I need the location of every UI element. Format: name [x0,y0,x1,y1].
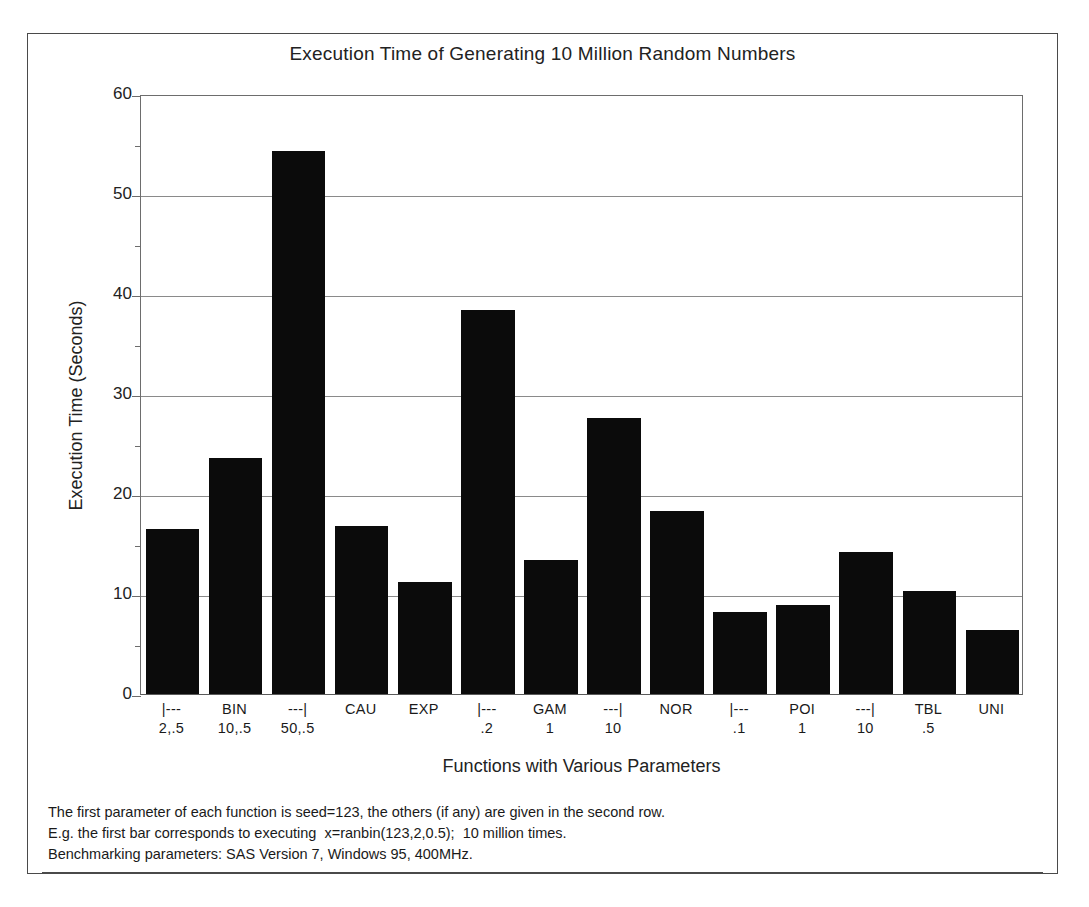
footnote-rule [42,872,1043,874]
x-tick-row2: 10 [834,719,897,738]
x-tick-row1: GAM [533,701,567,717]
bar [587,418,641,694]
chart-title: Execution Time of Generating 10 Million … [28,43,1057,65]
footnote: The first parameter of each function is … [48,802,1038,865]
x-tick-row1: ---| [603,701,622,717]
x-axis-tick-label: UNI [960,700,1023,719]
bar [903,591,957,694]
footnote-line-3: Benchmarking parameters: SAS Version 7, … [48,844,1038,865]
footnote-line-2: E.g. the first bar corresponds to execut… [48,823,1038,844]
y-axis-major-tick [132,196,141,197]
figure-frame: Execution Time of Generating 10 Million … [27,33,1058,874]
bar [398,582,452,694]
x-axis-tick-label: EXP [392,700,455,719]
y-axis-tick-label: 50 [72,184,132,204]
x-tick-row2: 1 [518,719,581,738]
x-tick-row1: POI [789,701,815,717]
plot-area [140,95,1023,695]
bar [146,529,200,694]
y-axis-tick-label: 20 [72,484,132,504]
y-axis-major-tick [132,596,141,597]
x-tick-row2: 10,.5 [203,719,266,738]
y-axis-minor-tick [135,646,141,647]
y-axis-minor-tick [135,346,141,347]
y-axis-tick-label: 10 [72,584,132,604]
bar [209,458,263,694]
bar [524,560,578,694]
x-tick-row2: 2,.5 [140,719,203,738]
x-axis-tick-label: ---|10 [582,700,645,738]
y-axis-major-tick [132,496,141,497]
x-tick-row1: |--- [162,701,181,717]
bar [272,151,326,694]
y-axis-major-tick [132,96,141,97]
x-axis-tick-label: TBL.5 [897,700,960,738]
y-axis-minor-tick [135,546,141,547]
y-axis-tick-label: 0 [72,684,132,704]
x-tick-row2: .5 [897,719,960,738]
x-tick-row2: 10 [582,719,645,738]
x-tick-row1: BIN [222,701,247,717]
x-axis-tick-label: |---.2 [455,700,518,738]
y-axis-tick-label: 40 [72,284,132,304]
x-axis-tick-label: NOR [645,700,708,719]
x-tick-row1: UNI [979,701,1005,717]
footnote-line-1: The first parameter of each function is … [48,802,1038,823]
y-axis-minor-tick [135,446,141,447]
x-tick-row1: |--- [729,701,748,717]
x-tick-row1: |--- [477,701,496,717]
x-tick-row1: ---| [856,701,875,717]
x-axis-tick-label: |---.1 [708,700,771,738]
y-axis-tick-labels: 0102030405060 [66,95,132,695]
x-tick-row1: TBL [915,701,943,717]
bar [335,526,389,694]
x-tick-row1: ---| [288,701,307,717]
bar [966,630,1020,694]
x-axis-tick-label: CAU [329,700,392,719]
x-axis-tick-label: GAM1 [518,700,581,738]
x-tick-row1: EXP [409,701,439,717]
x-axis-title: Functions with Various Parameters [140,756,1023,777]
x-axis-tick-label: |---2,.5 [140,700,203,738]
x-axis-tick-labels: |---2,.5BIN10,.5---|50,.5CAUEXP|---.2GAM… [140,700,1023,752]
x-axis-tick-label: BIN10,.5 [203,700,266,738]
x-axis-tick-label: ---|10 [834,700,897,738]
y-axis-major-tick [132,696,141,697]
x-tick-row2: 1 [771,719,834,738]
bar [839,552,893,694]
x-axis-tick-label: POI1 [771,700,834,738]
y-axis-major-tick [132,296,141,297]
y-axis-minor-tick [135,146,141,147]
y-axis-tick-label: 60 [72,84,132,104]
bar [650,511,704,694]
y-axis-tick-label: 30 [72,384,132,404]
x-tick-row2: 50,.5 [266,719,329,738]
bar [461,310,515,694]
x-tick-row2: .1 [708,719,771,738]
x-tick-row2: .2 [455,719,518,738]
x-tick-row1: NOR [660,701,693,717]
bar [776,605,830,694]
y-axis-major-tick [132,396,141,397]
x-tick-row1: CAU [345,701,377,717]
bar [713,612,767,694]
x-axis-tick-label: ---|50,.5 [266,700,329,738]
y-axis-minor-tick [135,246,141,247]
